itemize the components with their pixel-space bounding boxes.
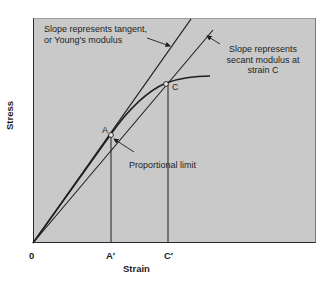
x-tick-c-prime: C′ bbox=[164, 250, 173, 261]
tangent-arrow bbox=[147, 38, 170, 46]
x-tick-origin: 0 bbox=[29, 250, 34, 261]
x-tick-a-prime: A′ bbox=[106, 250, 115, 261]
y-axis-label: Stress bbox=[4, 101, 15, 130]
x-axis-label: Strain bbox=[123, 263, 150, 274]
secant-annotation-line-1: Slope represents bbox=[220, 44, 306, 55]
point-a-label: A bbox=[102, 125, 108, 136]
stress-strain-figure: Slope represents tangent, or Young's mod… bbox=[0, 0, 333, 284]
secant-annotation-line-2: secant modulus at bbox=[220, 55, 306, 66]
tangent-annotation-line-2: or Young's modulus bbox=[44, 35, 147, 46]
point-c-marker bbox=[164, 82, 169, 87]
tangent-annotation: Slope represents tangent, or Young's mod… bbox=[44, 24, 147, 45]
point-c-label: C bbox=[172, 82, 179, 93]
secant-line bbox=[33, 30, 213, 243]
point-a-marker bbox=[109, 133, 114, 138]
secant-annotation: Slope represents secant modulus at strai… bbox=[220, 44, 306, 76]
proportional-limit-arrow bbox=[114, 139, 134, 152]
proportional-limit-annotation: Proportional limit bbox=[129, 160, 196, 171]
secant-annotation-line-3: strain C bbox=[220, 65, 306, 76]
secant-arrow bbox=[207, 36, 220, 44]
tangent-annotation-line-1: Slope represents tangent, bbox=[44, 24, 147, 35]
